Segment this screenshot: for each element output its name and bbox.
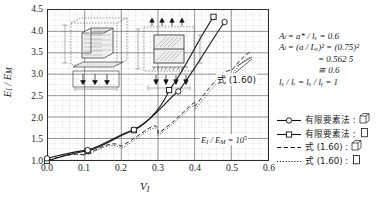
legend-label: 式 (1.60) : bbox=[305, 155, 348, 169]
equation-line-2: Aₗ = (a / Lₓ)² = (0.75)² bbox=[279, 42, 387, 53]
y-tick-label: 4.5 bbox=[17, 5, 43, 15]
x-axis-title: VI bbox=[140, 180, 149, 194]
x-axis-title-v: V bbox=[140, 180, 147, 192]
y-axis-title-e2: E bbox=[2, 74, 13, 80]
y-tick-label: 2.5 bbox=[17, 92, 43, 102]
y-axis-title-sub1: I bbox=[5, 88, 14, 91]
series-line-fem-2d bbox=[47, 17, 214, 161]
y-tick-label: 4.0 bbox=[17, 27, 43, 37]
legend-item: 式 (1.60) : bbox=[276, 155, 388, 169]
equation-line-5: lₓ / lᵣ = lₓ / lᵧ = 1 bbox=[279, 77, 387, 88]
y-tick-label: 3.0 bbox=[17, 70, 43, 80]
chart-root: 4.5 4.0 3.5 3.0 2.5 2.0 1.5 1.0 EI / EM bbox=[0, 0, 388, 220]
x-tick-label: 0.3 bbox=[143, 164, 173, 174]
annotation-equation-label: 式 (1.60) bbox=[216, 73, 257, 86]
series-line-eq160-3d bbox=[47, 52, 250, 160]
legend-label: 有限要素法 : bbox=[305, 128, 356, 142]
legend-symbol-solid-square bbox=[276, 129, 302, 140]
chart-legend: 有限要素法 : 有限要素法 : bbox=[276, 114, 388, 168]
annotation-leader-lines bbox=[235, 57, 252, 73]
x-tick-label: 0.0 bbox=[32, 164, 62, 174]
equation-line-1: Aₗ = a* / lₓ = 0.6 bbox=[279, 31, 387, 42]
legend-shape-square-2d bbox=[351, 154, 362, 170]
y-axis-tick-labels: 4.5 4.0 3.5 3.0 2.5 2.0 1.5 1.0 bbox=[13, 0, 43, 170]
y-tick-label: 2.0 bbox=[17, 114, 43, 124]
legend-item: 式 (1.60) : bbox=[276, 141, 388, 155]
legend-item: 有限要素法 : bbox=[276, 128, 388, 142]
y-tick-label: 3.5 bbox=[17, 48, 43, 58]
y-axis-title: EI / EM bbox=[2, 67, 15, 97]
y-axis-title-slash: / bbox=[2, 80, 13, 88]
x-tick-label: 0.1 bbox=[69, 164, 99, 174]
x-tick-label: 0.4 bbox=[180, 164, 210, 174]
legend-label: 有限要素法 : bbox=[305, 114, 356, 128]
equation-line-3: = 0.562 5 bbox=[279, 54, 387, 65]
series-markers-fem-2d bbox=[44, 14, 216, 163]
legend-symbol-dotted bbox=[276, 156, 302, 167]
y-axis-title-e1: E bbox=[2, 91, 13, 97]
equation-line-4: ≅ 0.6 bbox=[279, 65, 387, 76]
legend-symbol-solid-circle bbox=[276, 115, 302, 126]
x-axis-title-sub: I bbox=[147, 185, 150, 194]
series-markers-fem-3d bbox=[44, 19, 227, 161]
legend-symbol-dashed bbox=[276, 142, 302, 153]
y-tick-label: 1.5 bbox=[17, 135, 43, 145]
equation-block: Aₗ = a* / lₓ = 0.6 Aₗ = (a / Lₓ)² = (0.7… bbox=[279, 31, 387, 88]
legend-label: 式 (1.60) : bbox=[305, 141, 348, 155]
x-tick-label: 0.5 bbox=[217, 164, 247, 174]
legend-item: 有限要素法 : bbox=[276, 114, 388, 128]
x-tick-label: 0.2 bbox=[106, 164, 136, 174]
y-axis-title-sub2: M bbox=[5, 67, 14, 73]
